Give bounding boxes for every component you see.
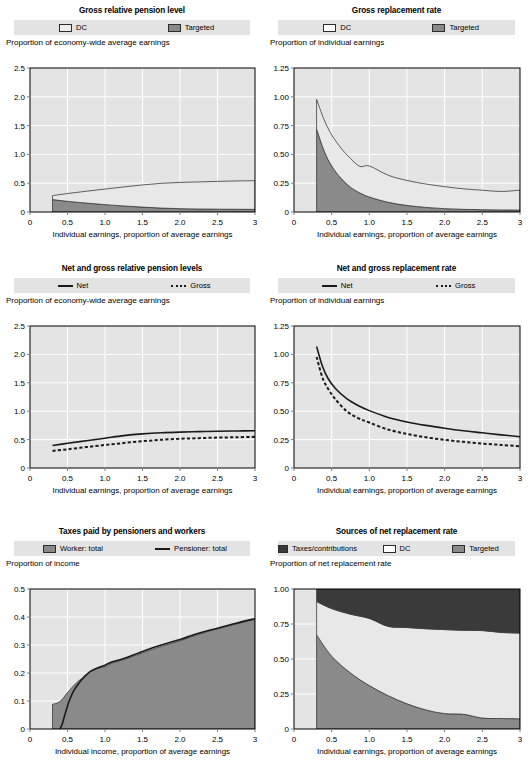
legend-label: Pensioner: total [174,544,227,553]
svg-text:Individual earnings, proportio: Individual earnings, proportion of avera… [317,747,497,756]
legend-line-net [58,285,73,287]
legend: DC Targeted [14,20,250,35]
svg-text:0.50: 0.50 [273,407,289,416]
legend-item-dc[interactable]: DC [278,23,397,32]
chart-area: 00.51.01.52.02.500.51.01.52.02.53Individ… [0,320,264,498]
svg-text:0.25: 0.25 [273,179,289,188]
legend-line-gross [171,285,186,287]
legend-label: Targeted [185,23,215,32]
svg-text:0.5: 0.5 [62,218,74,227]
legend-item-gross[interactable]: Gross [397,281,516,290]
y-axis-title: Proportion of economy-wide average earni… [6,296,264,306]
svg-text:3: 3 [518,735,523,744]
svg-text:1.5: 1.5 [137,474,149,483]
legend: DC Targeted [278,20,515,35]
panel-sources-of-net-replacement-rate: Sources of net replacement rate Taxes/co… [264,505,529,762]
svg-text:2.5: 2.5 [212,474,224,483]
svg-text:0: 0 [28,218,33,227]
legend-swatch-taxes [278,545,288,553]
legend-swatch-dc [59,24,72,32]
svg-text:0.5: 0.5 [14,179,26,188]
svg-text:0: 0 [285,725,290,734]
svg-text:1.5: 1.5 [14,379,26,388]
svg-text:3: 3 [518,218,523,227]
svg-text:Individual earnings, proportio: Individual earnings, proportion of avera… [317,230,497,239]
legend-item-taxes-contributions[interactable]: Taxes/contributions [278,544,357,553]
legend-item-net[interactable]: Net [14,281,132,290]
svg-text:2.5: 2.5 [212,218,224,227]
legend-item-pensioner-total[interactable]: Pensioner: total [132,544,250,553]
svg-text:1.00: 1.00 [273,93,289,102]
svg-text:0.5: 0.5 [14,585,26,594]
svg-text:1.5: 1.5 [401,218,413,227]
svg-text:0.25: 0.25 [273,690,289,699]
svg-text:1.00: 1.00 [273,585,289,594]
y-axis-title: Proportion of individual earnings [270,296,529,306]
svg-text:0.5: 0.5 [62,474,74,483]
svg-text:0: 0 [21,464,26,473]
legend-label: Taxes/contributions [292,544,357,553]
legend-label: DC [340,23,351,32]
svg-text:2.5: 2.5 [212,735,224,744]
chart-area: 00.250.500.751.001.2500.51.01.52.02.53In… [264,62,529,242]
svg-text:2.0: 2.0 [439,474,451,483]
y-axis-title: Proportion of income [6,559,264,569]
svg-text:1.5: 1.5 [14,122,26,131]
svg-text:Individual earnings, proportio: Individual earnings, proportion of avera… [52,230,232,239]
svg-text:3: 3 [253,735,258,744]
svg-text:Individual earnings, proportio: Individual earnings, proportion of avera… [317,486,497,495]
legend-item-worker-total[interactable]: Worker: total [14,544,132,553]
legend-line-gross [436,285,451,287]
svg-text:1.5: 1.5 [137,735,149,744]
svg-text:0.5: 0.5 [14,436,26,445]
svg-text:0.1: 0.1 [14,697,26,706]
panel-title: Sources of net replacement rate [264,505,529,537]
svg-text:1.0: 1.0 [364,474,376,483]
panel-gross-replacement-rate: Gross replacement rate DC Targeted Propo… [264,0,529,250]
legend-item-net[interactable]: Net [278,281,397,290]
legend-item-dc[interactable]: DC [357,544,436,553]
legend-label: Gross [190,281,210,290]
legend-line-net [322,285,337,287]
legend-swatch-targeted [432,24,445,32]
legend-label: Targeted [449,23,479,32]
svg-text:0: 0 [21,725,26,734]
figure-grid: Gross relative pension level DC Targeted… [0,0,529,762]
panel-title: Gross replacement rate [264,0,529,16]
svg-text:Individual earnings, proportio: Individual earnings, proportion of avera… [52,486,232,495]
svg-text:2.0: 2.0 [174,735,186,744]
panel-taxes-paid-by-pensioners-and-workers: Taxes paid by pensioners and workers Wor… [0,505,264,762]
svg-text:1.25: 1.25 [273,64,289,73]
svg-text:1.0: 1.0 [99,218,111,227]
svg-text:3: 3 [253,474,258,483]
svg-text:1.0: 1.0 [99,474,111,483]
y-axis-title: Proportion of individual earnings [270,38,529,48]
svg-text:2.0: 2.0 [14,350,26,359]
legend-item-targeted[interactable]: Targeted [436,544,515,553]
svg-text:1.0: 1.0 [14,407,26,416]
legend-label: Net [77,281,89,290]
svg-text:3: 3 [253,218,258,227]
legend-item-gross[interactable]: Gross [132,281,250,290]
panel-title: Net and gross relative pension levels [0,250,264,274]
panel-title: Net and gross replacement rate [264,250,529,274]
legend-item-targeted[interactable]: Targeted [132,23,250,32]
svg-text:2.5: 2.5 [477,474,489,483]
svg-text:2.5: 2.5 [477,218,489,227]
legend-label: Gross [455,281,475,290]
svg-text:2.5: 2.5 [477,735,489,744]
legend-line-pensioner [155,548,170,550]
y-axis-title: Proportion of net replacement rate [270,559,529,569]
panel-net-and-gross-replacement-rate: Net and gross replacement rate Net Gross… [264,250,529,505]
svg-text:0: 0 [28,474,33,483]
svg-text:0: 0 [285,208,290,217]
svg-text:0.3: 0.3 [14,641,26,650]
svg-text:2.0: 2.0 [174,218,186,227]
legend-item-dc[interactable]: DC [14,23,132,32]
legend-item-targeted[interactable]: Targeted [397,23,516,32]
svg-text:0: 0 [285,464,290,473]
legend-swatch-dc [323,24,336,32]
svg-text:2.0: 2.0 [439,735,451,744]
svg-text:0: 0 [292,218,297,227]
svg-text:0: 0 [292,735,297,744]
